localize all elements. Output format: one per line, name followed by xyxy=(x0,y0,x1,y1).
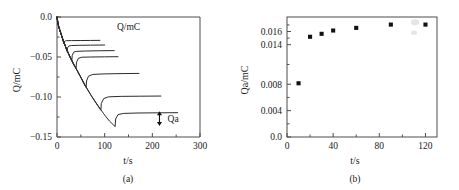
scan-artifact xyxy=(411,19,419,35)
curve-step-3 xyxy=(57,17,114,61)
curve-step-7 xyxy=(57,17,178,127)
panel-a-plot: 01002003000.0−0.05−0.10−0.15 Q/mCQa xyxy=(30,12,207,151)
data-point xyxy=(320,32,324,36)
x-axis-title: t/s xyxy=(350,155,360,166)
y-tick-label: 0.0 xyxy=(270,132,282,142)
panel-a: 01002003000.0−0.05−0.10−0.15 Q/mCQa Q/mC… xyxy=(0,0,230,190)
y-tick-label: 0.008 xyxy=(261,80,283,90)
axis-ticks xyxy=(287,25,425,137)
y-tick-label: −0.15 xyxy=(30,132,52,142)
curve-step-4 xyxy=(57,17,118,68)
y-axis-title: Q/mC xyxy=(11,67,22,92)
data-point xyxy=(354,26,358,30)
y-axis-title: Qa/mC xyxy=(239,65,250,94)
x-tick-label: 200 xyxy=(145,141,160,151)
figure-container: 01002003000.0−0.05−0.10−0.15 Q/mCQa Q/mC… xyxy=(0,0,459,190)
panel-b: 040801200.00.0040.0080.0140.016 Qa/mC t/… xyxy=(230,0,459,190)
x-tick-label: 120 xyxy=(418,141,433,151)
y-tick-label: 0.014 xyxy=(261,40,283,50)
y-tick-label: −0.05 xyxy=(30,52,52,62)
panel-b-plot: 040801200.00.0040.0080.0140.016 xyxy=(261,17,437,151)
data-point-group xyxy=(296,23,427,86)
annotation-q-mc: Q/mC xyxy=(117,22,140,32)
data-point xyxy=(308,35,312,39)
y-tick-label: −0.10 xyxy=(30,92,52,102)
panel-caption-a: (a) xyxy=(123,174,134,185)
annotation-qa: Qa xyxy=(168,114,180,124)
data-point xyxy=(423,23,427,27)
data-point xyxy=(331,28,335,32)
axis-tick-labels: 040801200.00.0040.0080.0140.016 xyxy=(261,27,433,151)
x-tick-label: 300 xyxy=(193,141,208,151)
x-tick-label: 40 xyxy=(328,141,338,151)
data-point xyxy=(296,81,300,85)
x-tick-label: 80 xyxy=(375,141,385,151)
curve-group xyxy=(57,17,178,127)
curve-step-6 xyxy=(57,17,161,110)
x-tick-label: 100 xyxy=(98,141,113,151)
x-axis-title: t/s xyxy=(123,155,133,166)
y-tick-label: 0.016 xyxy=(261,27,283,37)
x-tick-label: 0 xyxy=(55,141,60,151)
curve-step-2 xyxy=(57,17,105,51)
x-tick-label: 0 xyxy=(285,141,290,151)
y-tick-label: 0.0 xyxy=(40,12,52,22)
panel-a-svg: 01002003000.0−0.05−0.10−0.15 Q/mCQa Q/mC… xyxy=(0,0,230,190)
y-tick-label: 0.004 xyxy=(261,106,283,116)
data-point xyxy=(389,23,393,27)
panel-caption-b: (b) xyxy=(349,174,360,185)
qa-arrow-head-down xyxy=(157,122,162,126)
panel-b-svg: 040801200.00.0040.0080.0140.016 Qa/mC t/… xyxy=(230,0,459,190)
